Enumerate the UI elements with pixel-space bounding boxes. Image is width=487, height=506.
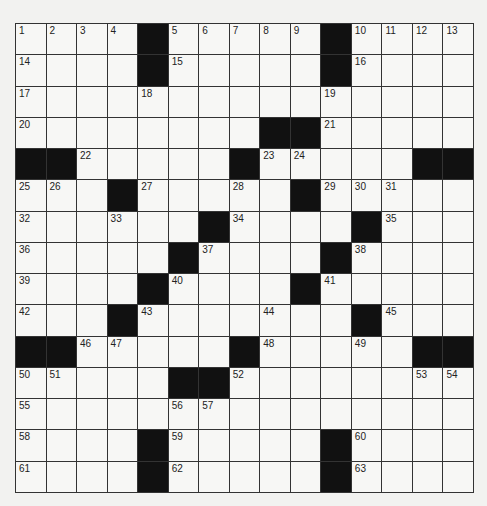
grid-cell[interactable]: 32 <box>16 212 46 242</box>
grid-cell[interactable] <box>382 399 412 429</box>
grid-cell[interactable]: 14 <box>16 55 46 85</box>
grid-cell[interactable] <box>352 118 382 148</box>
grid-cell[interactable] <box>291 337 321 367</box>
grid-cell[interactable]: 50 <box>16 368 46 398</box>
grid-cell[interactable]: 27 <box>138 180 168 210</box>
grid-cell[interactable]: 18 <box>138 87 168 117</box>
grid-cell[interactable] <box>413 430 443 460</box>
grid-cell[interactable]: 60 <box>352 430 382 460</box>
grid-cell[interactable] <box>169 337 199 367</box>
grid-cell[interactable] <box>382 149 412 179</box>
grid-cell[interactable] <box>230 399 260 429</box>
grid-cell[interactable] <box>77 212 107 242</box>
grid-cell[interactable] <box>291 212 321 242</box>
grid-cell[interactable] <box>108 118 138 148</box>
grid-cell[interactable] <box>352 399 382 429</box>
grid-cell[interactable]: 13 <box>443 24 473 54</box>
grid-cell[interactable] <box>47 274 77 304</box>
grid-cell[interactable] <box>321 212 351 242</box>
grid-cell[interactable]: 42 <box>16 305 46 335</box>
grid-cell[interactable] <box>321 337 351 367</box>
grid-cell[interactable] <box>77 430 107 460</box>
grid-cell[interactable]: 45 <box>382 305 412 335</box>
grid-cell[interactable] <box>138 399 168 429</box>
grid-cell[interactable] <box>291 462 321 492</box>
grid-cell[interactable] <box>77 243 107 273</box>
grid-cell[interactable]: 6 <box>199 24 229 54</box>
grid-cell[interactable]: 48 <box>260 337 290 367</box>
grid-cell[interactable]: 3 <box>77 24 107 54</box>
grid-cell[interactable] <box>47 118 77 148</box>
grid-cell[interactable] <box>77 305 107 335</box>
grid-cell[interactable] <box>443 55 473 85</box>
grid-cell[interactable] <box>108 55 138 85</box>
grid-cell[interactable] <box>47 399 77 429</box>
grid-cell[interactable] <box>443 212 473 242</box>
grid-cell[interactable] <box>382 337 412 367</box>
grid-cell[interactable]: 16 <box>352 55 382 85</box>
grid-cell[interactable] <box>382 55 412 85</box>
grid-cell[interactable] <box>413 243 443 273</box>
grid-cell[interactable] <box>199 87 229 117</box>
grid-cell[interactable] <box>77 274 107 304</box>
grid-cell[interactable]: 35 <box>382 212 412 242</box>
grid-cell[interactable] <box>138 368 168 398</box>
grid-cell[interactable] <box>77 399 107 429</box>
grid-cell[interactable] <box>47 55 77 85</box>
grid-cell[interactable] <box>169 212 199 242</box>
grid-cell[interactable] <box>260 368 290 398</box>
grid-cell[interactable] <box>443 399 473 429</box>
grid-cell[interactable] <box>77 55 107 85</box>
grid-cell[interactable] <box>443 118 473 148</box>
grid-cell[interactable]: 43 <box>138 305 168 335</box>
grid-cell[interactable] <box>230 87 260 117</box>
grid-cell[interactable] <box>443 243 473 273</box>
grid-cell[interactable] <box>321 305 351 335</box>
grid-cell[interactable] <box>413 55 443 85</box>
grid-cell[interactable]: 5 <box>169 24 199 54</box>
grid-cell[interactable] <box>413 274 443 304</box>
grid-cell[interactable]: 61 <box>16 462 46 492</box>
grid-cell[interactable]: 31 <box>382 180 412 210</box>
grid-cell[interactable] <box>260 243 290 273</box>
grid-cell[interactable] <box>260 55 290 85</box>
grid-cell[interactable]: 19 <box>321 87 351 117</box>
grid-cell[interactable] <box>199 462 229 492</box>
grid-cell[interactable]: 38 <box>352 243 382 273</box>
grid-cell[interactable] <box>47 430 77 460</box>
grid-cell[interactable]: 51 <box>47 368 77 398</box>
grid-cell[interactable] <box>47 87 77 117</box>
grid-cell[interactable]: 8 <box>260 24 290 54</box>
grid-cell[interactable] <box>138 118 168 148</box>
grid-cell[interactable] <box>291 55 321 85</box>
grid-cell[interactable]: 57 <box>199 399 229 429</box>
grid-cell[interactable]: 30 <box>352 180 382 210</box>
grid-cell[interactable] <box>291 430 321 460</box>
grid-cell[interactable]: 37 <box>199 243 229 273</box>
grid-cell[interactable] <box>199 274 229 304</box>
grid-cell[interactable] <box>413 180 443 210</box>
grid-cell[interactable] <box>291 305 321 335</box>
grid-cell[interactable]: 53 <box>413 368 443 398</box>
grid-cell[interactable] <box>260 399 290 429</box>
grid-cell[interactable]: 25 <box>16 180 46 210</box>
grid-cell[interactable]: 21 <box>321 118 351 148</box>
grid-cell[interactable]: 4 <box>108 24 138 54</box>
grid-cell[interactable] <box>260 430 290 460</box>
grid-cell[interactable] <box>443 305 473 335</box>
grid-cell[interactable] <box>413 212 443 242</box>
grid-cell[interactable] <box>291 87 321 117</box>
grid-cell[interactable]: 26 <box>47 180 77 210</box>
grid-cell[interactable] <box>260 180 290 210</box>
grid-cell[interactable]: 63 <box>352 462 382 492</box>
grid-cell[interactable]: 2 <box>47 24 77 54</box>
grid-cell[interactable]: 44 <box>260 305 290 335</box>
grid-cell[interactable] <box>321 149 351 179</box>
grid-cell[interactable] <box>199 118 229 148</box>
grid-cell[interactable] <box>199 430 229 460</box>
grid-cell[interactable]: 33 <box>108 212 138 242</box>
grid-cell[interactable] <box>382 430 412 460</box>
grid-cell[interactable] <box>199 149 229 179</box>
grid-cell[interactable] <box>199 305 229 335</box>
grid-cell[interactable] <box>199 337 229 367</box>
